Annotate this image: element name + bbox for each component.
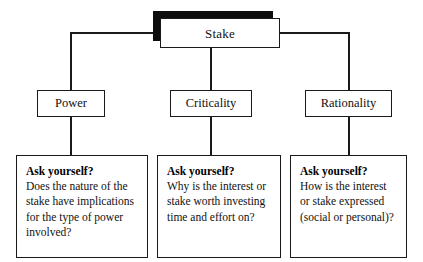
category-node-rationality-label: Rationality — [321, 97, 377, 110]
connector-stake-to-rationality — [280, 33, 349, 90]
question-box-rationality: Ask yourself? How is the interest or sta… — [290, 155, 407, 258]
category-node-criticality: Criticality — [170, 90, 252, 117]
question-box-rationality-body: How is the interest or stake expressed (… — [300, 179, 398, 225]
stake-node-label: Stake — [205, 27, 235, 40]
category-node-power: Power — [37, 90, 105, 117]
stake-node: Stake — [160, 18, 280, 48]
connector-stake-to-power — [71, 33, 160, 90]
question-box-criticality-body: Why is the interest or stake worth inves… — [167, 179, 272, 225]
stake-analysis-diagram: Stake Power Criticality Rationality Ask … — [0, 0, 423, 262]
question-box-power-body: Does the nature of the stake have implic… — [26, 179, 139, 240]
question-box-rationality-heading: Ask yourself? — [300, 164, 398, 179]
question-box-criticality: Ask yourself? Why is the interest or sta… — [157, 155, 281, 258]
question-box-power: Ask yourself? Does the nature of the sta… — [16, 155, 148, 258]
category-node-rationality: Rationality — [305, 90, 392, 117]
question-box-criticality-heading: Ask yourself? — [167, 164, 272, 179]
category-node-power-label: Power — [55, 97, 87, 110]
question-box-power-heading: Ask yourself? — [26, 164, 139, 179]
category-node-criticality-label: Criticality — [186, 97, 237, 110]
